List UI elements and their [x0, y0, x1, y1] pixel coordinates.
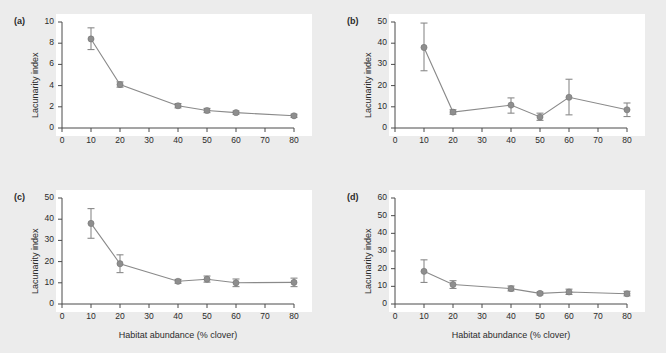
chart-panel-c: (c)Lacunarity indexHabitat abundance (% …	[0, 176, 333, 353]
y-tick-label: 30	[359, 58, 387, 68]
data-point-marker	[204, 276, 210, 282]
data-point-marker	[537, 290, 543, 296]
y-tick-label: 40	[26, 213, 54, 223]
x-tick-label: 70	[251, 135, 279, 145]
x-tick-label: 50	[193, 135, 221, 145]
chart-panel-d: (d)Lacunarity indexHabitat abundance (% …	[333, 176, 666, 353]
y-tick-label: 0	[359, 122, 387, 132]
x-tick-label: 80	[613, 135, 641, 145]
data-point-marker	[291, 113, 297, 119]
data-point-marker	[88, 220, 94, 226]
data-point-marker	[566, 94, 572, 100]
x-tick-label: 0	[48, 135, 76, 145]
x-tick-label: 20	[439, 135, 467, 145]
x-tick-label: 80	[280, 135, 308, 145]
y-tick-label: 10	[26, 16, 54, 26]
x-tick-label: 10	[410, 135, 438, 145]
series-line	[91, 223, 294, 282]
x-tick-label: 20	[439, 311, 467, 321]
y-tick-label: 40	[359, 37, 387, 47]
data-point-marker	[421, 268, 427, 274]
data-point-marker	[88, 36, 94, 42]
x-tick-label: 60	[222, 311, 250, 321]
x-tick-label: 20	[106, 135, 134, 145]
y-tick-label: 6	[26, 58, 54, 68]
y-tick-label: 4	[26, 80, 54, 90]
x-tick-label: 10	[77, 311, 105, 321]
y-tick-label: 10	[359, 280, 387, 290]
data-point-marker	[117, 261, 123, 267]
figure-canvas: (a)Lacunarity index024681001020304050607…	[0, 0, 666, 353]
series-line	[424, 47, 627, 117]
x-tick-label: 30	[135, 311, 163, 321]
x-tick-label: 60	[555, 135, 583, 145]
data-point-marker	[175, 103, 181, 109]
y-tick-label: 8	[26, 37, 54, 47]
y-tick-label: 10	[359, 101, 387, 111]
x-tick-label: 50	[526, 135, 554, 145]
data-point-marker	[291, 279, 297, 285]
chart-panel-b: (b)Lacunarity index010203040500102030405…	[333, 0, 666, 176]
x-tick-label: 30	[468, 311, 496, 321]
y-tick-label: 0	[26, 298, 54, 308]
data-point-marker	[624, 107, 630, 113]
x-tick-label: 70	[251, 311, 279, 321]
x-tick-label: 0	[381, 311, 409, 321]
x-tick-label: 0	[381, 135, 409, 145]
y-tick-label: 50	[359, 16, 387, 26]
x-tick-label: 40	[164, 311, 192, 321]
x-tick-label: 30	[468, 135, 496, 145]
data-point-marker	[204, 107, 210, 113]
y-tick-label: 0	[26, 122, 54, 132]
y-tick-label: 20	[26, 256, 54, 266]
data-point-marker	[537, 114, 543, 120]
x-tick-label: 40	[497, 311, 525, 321]
x-tick-label: 70	[584, 311, 612, 321]
x-tick-label: 50	[193, 311, 221, 321]
data-point-marker	[117, 81, 123, 87]
y-tick-label: 30	[26, 234, 54, 244]
x-tick-label: 50	[526, 311, 554, 321]
data-point-marker	[175, 278, 181, 284]
data-point-marker	[421, 44, 427, 50]
y-tick-label: 50	[359, 210, 387, 220]
data-point-marker	[233, 280, 239, 286]
data-point-marker	[450, 281, 456, 287]
data-point-marker	[624, 291, 630, 297]
x-tick-label: 0	[48, 311, 76, 321]
x-tick-label: 20	[106, 311, 134, 321]
y-tick-label: 2	[26, 101, 54, 111]
y-tick-label: 60	[359, 192, 387, 202]
x-tick-label: 30	[135, 135, 163, 145]
x-tick-label: 10	[410, 311, 438, 321]
x-tick-label: 80	[280, 311, 308, 321]
chart-panel-a: (a)Lacunarity index024681001020304050607…	[0, 0, 333, 176]
x-tick-label: 40	[497, 135, 525, 145]
y-tick-label: 10	[26, 277, 54, 287]
y-tick-label: 40	[359, 227, 387, 237]
x-tick-label: 40	[164, 135, 192, 145]
data-point-marker	[508, 286, 514, 292]
series-line	[91, 39, 294, 116]
data-point-marker	[233, 110, 239, 116]
y-tick-label: 50	[26, 192, 54, 202]
data-point-marker	[508, 102, 514, 108]
y-tick-label: 20	[359, 263, 387, 273]
x-tick-label: 60	[222, 135, 250, 145]
x-tick-label: 60	[555, 311, 583, 321]
data-point-marker	[566, 289, 572, 295]
x-tick-label: 80	[613, 311, 641, 321]
y-tick-label: 30	[359, 245, 387, 255]
y-tick-label: 0	[359, 298, 387, 308]
y-tick-label: 20	[359, 80, 387, 90]
data-point-marker	[450, 109, 456, 115]
x-tick-label: 70	[584, 135, 612, 145]
x-tick-label: 10	[77, 135, 105, 145]
